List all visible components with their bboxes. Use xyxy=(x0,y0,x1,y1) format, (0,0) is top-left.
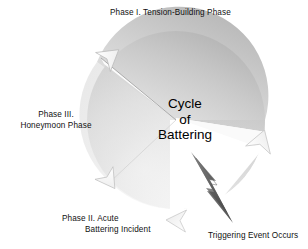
arrow-bottom-center-icon xyxy=(165,209,186,232)
center-title-line1: Cycle xyxy=(142,96,228,112)
label-phase-two: Phase II. AcuteBattering Incident xyxy=(62,214,151,235)
center-title-line3: Battering xyxy=(142,127,228,143)
center-title-line2: of xyxy=(142,112,228,128)
label-phase-three-line2: Honeymoon Phase xyxy=(14,121,98,132)
label-phase-one: Phase I. Tension-Building Phase xyxy=(110,8,231,19)
diagram-center-title: Cycle of Battering xyxy=(142,96,228,143)
cycle-of-battering-diagram: Phase I. Tension-Building Phase Phase II… xyxy=(0,0,308,249)
label-phase-three-line1: Phase III. xyxy=(38,110,74,119)
label-phase-two-line1: Phase II. Acute xyxy=(62,214,119,223)
label-phase-two-line2: Battering Incident xyxy=(62,225,151,236)
label-triggering-event: Triggering Event Occurs xyxy=(208,231,298,242)
label-phase-three: Phase III.Honeymoon Phase xyxy=(14,110,98,131)
